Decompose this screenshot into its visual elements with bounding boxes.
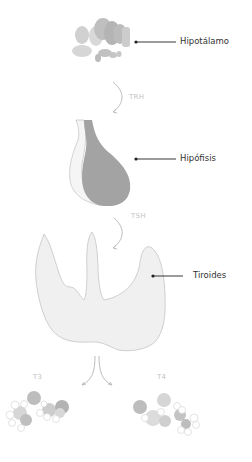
thyroid-illustration <box>36 232 166 351</box>
t3-arrow <box>82 356 95 385</box>
t4-molecule-illustration <box>133 393 200 436</box>
hormone-trh: TRH <box>129 93 144 101</box>
thyroid-pointer-dot <box>151 274 154 277</box>
hormone-tsh: TSH <box>131 212 146 220</box>
t3-molecule-illustration <box>6 391 69 432</box>
t4-arrow <box>99 356 112 385</box>
hypothalamus-illustration <box>72 18 130 62</box>
label-pituitary: Hipófisis <box>180 153 216 163</box>
pituitary-pointer-dot <box>134 157 137 160</box>
label-thyroid: Tiroides <box>193 270 226 280</box>
tsh-arrow <box>113 218 122 248</box>
hormone-t4: T4 <box>157 373 166 381</box>
hypothalamus-pointer-dot <box>134 40 137 43</box>
hormone-t3: T3 <box>33 373 42 381</box>
trh-arrow <box>113 82 122 112</box>
label-hypothalamus: Hipotálamo <box>180 36 229 46</box>
pituitary-illustration <box>70 120 131 206</box>
thyroid-axis-diagram <box>0 0 252 462</box>
